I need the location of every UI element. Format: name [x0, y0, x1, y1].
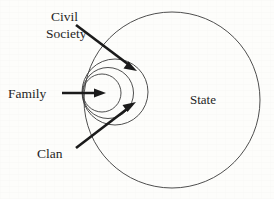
label-family: Family [8, 86, 47, 101]
label-state: State [190, 92, 216, 107]
diagram-canvas: Civil Society Family Clan State [0, 0, 274, 199]
nested-circles-diagram: Civil Society Family Clan State [0, 0, 274, 199]
arrow-family-head [94, 89, 106, 98]
arrow-clan [76, 102, 136, 148]
label-civil-society-line1: Civil [51, 9, 78, 24]
label-clan: Clan [37, 146, 63, 161]
label-civil-society-line2: Society [46, 26, 87, 41]
arrow-clan-shaft [76, 109, 127, 148]
circle-state [84, 12, 260, 188]
